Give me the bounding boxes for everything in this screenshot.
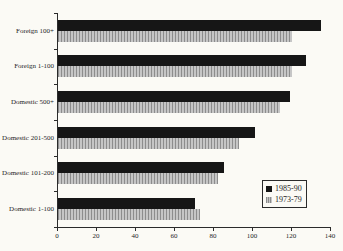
- y-axis-tick: [54, 13, 57, 14]
- category-label: Domestic 101-200: [0, 168, 54, 178]
- y-axis-tick: [54, 49, 57, 50]
- legend-swatch-hatched-icon: [266, 197, 272, 203]
- category-label: Domestic 1-100: [0, 204, 54, 214]
- legend-swatch-solid-icon: [266, 186, 272, 192]
- x-axis-tick: [174, 228, 175, 231]
- y-axis-tick: [54, 191, 57, 192]
- legend-item-1973-79: 1973-79: [266, 194, 302, 205]
- x-tick-label: 140: [318, 232, 342, 241]
- bar-1973-79: [58, 66, 292, 77]
- x-tick-label: 60: [162, 232, 186, 241]
- x-axis-tick: [291, 228, 292, 231]
- bar-1973-79: [58, 138, 239, 149]
- x-axis-tick: [96, 228, 97, 231]
- bar-1973-79: [58, 31, 292, 42]
- x-axis-tick: [252, 228, 253, 231]
- category-label: Foreign 100+: [0, 26, 54, 36]
- bar-1985-90: [58, 198, 195, 209]
- bar-1985-90: [58, 20, 321, 31]
- bar-1985-90: [58, 127, 255, 138]
- legend-label: 1985-90: [275, 183, 302, 194]
- bar-1985-90: [58, 162, 224, 173]
- legend: 1985-90 1973-79: [262, 180, 307, 208]
- legend-label: 1973-79: [275, 194, 302, 205]
- bar-chart-figure: 1985-90 1973-79 Foreign 100+Foreign 1-10…: [0, 0, 343, 251]
- y-axis-tick: [54, 156, 57, 157]
- category-label: Foreign 1-100: [0, 61, 54, 71]
- x-tick-label: 120: [279, 232, 303, 241]
- y-axis-tick: [54, 84, 57, 85]
- x-tick-label: 0: [45, 232, 69, 241]
- bar-1973-79: [58, 209, 200, 220]
- x-tick-label: 40: [123, 232, 147, 241]
- category-label: Domestic 201-500: [0, 133, 54, 143]
- x-axis-tick: [330, 228, 331, 231]
- x-tick-label: 20: [84, 232, 108, 241]
- bar-1973-79: [58, 102, 280, 113]
- x-tick-label: 80: [201, 232, 225, 241]
- x-tick-label: 100: [240, 232, 264, 241]
- x-axis-tick: [135, 228, 136, 231]
- bar-1973-79: [58, 173, 218, 184]
- y-axis-tick: [54, 120, 57, 121]
- category-label: Domestic 500+: [0, 97, 54, 107]
- bar-1985-90: [58, 91, 290, 102]
- x-axis-tick: [213, 228, 214, 231]
- legend-item-1985-90: 1985-90: [266, 183, 302, 194]
- bar-1985-90: [58, 55, 306, 66]
- x-axis-tick: [57, 228, 58, 231]
